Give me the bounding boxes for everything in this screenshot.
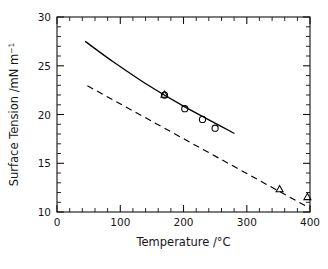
triangle-data-markers — [161, 91, 311, 200]
x-tick-label-100: 100 — [110, 216, 130, 228]
x-tick-label-400: 400 — [300, 216, 320, 228]
y-tick-label-25: 25 — [38, 60, 51, 72]
plot-frame — [57, 17, 310, 212]
y-tick-label-15: 15 — [38, 157, 51, 169]
plot-canvas: 0 100 200 300 400 10 15 20 25 30 Tempera… — [0, 0, 328, 269]
solid-curve-series — [86, 42, 235, 134]
y-axis-title: Surface Tension /mN m−1 — [7, 42, 21, 186]
y-tick-label-20: 20 — [38, 109, 51, 121]
y-axis-minor-ticks — [57, 27, 310, 203]
x-axis-title: Temperature /°C — [135, 235, 230, 249]
x-axis-major-ticks — [57, 17, 310, 212]
x-tick-label-300: 300 — [237, 216, 257, 228]
data-point-circle — [199, 116, 205, 122]
y-axis-title-main: Surface Tension /mN m — [7, 54, 21, 187]
x-tick-label-0: 0 — [54, 216, 61, 228]
y-tick-label-30: 30 — [38, 11, 51, 23]
y-axis-title-group: Surface Tension /mN m−1 — [7, 42, 21, 186]
surface-tension-chart: 0 100 200 300 400 10 15 20 25 30 Tempera… — [0, 0, 328, 269]
y-tick-label-10: 10 — [38, 206, 51, 218]
data-point-circle — [212, 125, 218, 131]
data-point-triangle — [276, 186, 283, 192]
y-axis-title-superscript: −1 — [7, 42, 16, 53]
x-tick-label-200: 200 — [173, 216, 193, 228]
y-axis-major-ticks — [57, 17, 310, 212]
